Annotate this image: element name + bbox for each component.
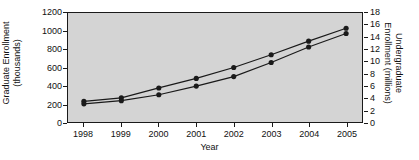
data-point-marker xyxy=(269,52,274,57)
y-axis-left-title-line2: (thousands) xyxy=(12,4,23,122)
y-axis-right-tick-mark xyxy=(364,123,368,124)
data-point-marker xyxy=(156,92,161,97)
y-axis-right-tick-label: 10 xyxy=(370,57,380,66)
y-axis-left-tick-mark xyxy=(63,105,67,106)
x-axis-tick-mark xyxy=(83,123,84,127)
y-axis-right-tick-mark xyxy=(364,61,368,62)
data-point-marker xyxy=(119,98,124,103)
y-axis-right-title: Undergraduate Enrollment (millions) xyxy=(382,4,404,122)
x-axis-title: Year xyxy=(0,142,419,152)
y-axis-left-tick-mark xyxy=(63,123,67,124)
y-axis-left-title: Graduate Enrollment (thousands) xyxy=(1,4,23,122)
data-point-marker xyxy=(231,65,236,70)
y-axis-left-tick-mark xyxy=(63,86,67,87)
y-axis-left-tick-label: 400 xyxy=(47,82,62,91)
y-axis-left-tick-mark xyxy=(63,12,67,13)
data-point-marker xyxy=(269,60,274,65)
series-line xyxy=(84,28,346,101)
y-axis-right-tick-mark xyxy=(364,37,368,38)
data-point-marker xyxy=(194,84,199,89)
x-axis-tick-label: 2000 xyxy=(138,129,178,139)
y-axis-right-tick-mark xyxy=(364,98,368,99)
y-axis-right-title-line1: Undergraduate xyxy=(393,4,404,122)
data-point-marker xyxy=(231,74,236,79)
y-axis-right-tick-label: 8 xyxy=(370,69,375,78)
y-axis-right-title-line2: Enrollment (millions) xyxy=(382,4,393,122)
series-line xyxy=(84,33,346,103)
data-point-marker xyxy=(156,85,161,90)
x-axis-tick-mark xyxy=(234,123,235,127)
y-axis-right-tick-label: 0 xyxy=(370,119,375,128)
x-axis-tick-label: 2001 xyxy=(176,129,216,139)
y-axis-right-tick-mark xyxy=(364,49,368,50)
series-canvas xyxy=(68,13,362,122)
data-point-marker xyxy=(194,76,199,81)
y-axis-left-tick-label: 800 xyxy=(47,45,62,54)
y-axis-left-tick-label: 600 xyxy=(47,63,62,72)
x-axis-tick-mark xyxy=(121,123,122,127)
y-axis-left-tick-label: 200 xyxy=(47,100,62,109)
data-point-marker xyxy=(306,39,311,44)
y-axis-left-tick-label: 0 xyxy=(57,119,62,128)
data-point-marker xyxy=(81,101,86,106)
y-axis-right-tick-label: 4 xyxy=(370,94,375,103)
y-axis-left-ticks: 020040060080010001200 xyxy=(18,0,62,160)
y-axis-right-tick-label: 14 xyxy=(370,32,380,41)
data-point-marker xyxy=(344,31,349,36)
y-axis-right-tick-label: 18 xyxy=(370,8,380,17)
y-axis-right-tick-mark xyxy=(364,74,368,75)
y-axis-right-tick-label: 2 xyxy=(370,106,375,115)
x-axis-tick-label: 2005 xyxy=(327,129,367,139)
y-axis-left-tick-label: 1000 xyxy=(42,26,62,35)
x-axis-tick-label: 2004 xyxy=(289,129,329,139)
x-axis-tick-mark xyxy=(158,123,159,127)
y-axis-right-tick-label: 12 xyxy=(370,45,380,54)
data-point-marker xyxy=(344,26,349,31)
y-axis-right-tick-label: 6 xyxy=(370,82,375,91)
chart-figure: 020040060080010001200 024681012141618 Gr… xyxy=(0,0,419,160)
x-axis-tick-mark xyxy=(196,123,197,127)
x-axis-tick-label: 1999 xyxy=(101,129,141,139)
x-axis-tick-label: 2003 xyxy=(252,129,292,139)
y-axis-left-tick-mark xyxy=(63,68,67,69)
x-axis-tick-label: 1998 xyxy=(63,129,103,139)
data-point-marker xyxy=(306,45,311,50)
plot-area xyxy=(67,12,363,123)
y-axis-right-tick-mark xyxy=(364,12,368,13)
y-axis-right-tick-mark xyxy=(364,24,368,25)
y-axis-right-tick-label: 16 xyxy=(370,20,380,29)
y-axis-left-tick-label: 1200 xyxy=(42,8,62,17)
y-axis-left-tick-mark xyxy=(63,31,67,32)
x-axis-tick-mark xyxy=(347,123,348,127)
x-axis-tick-label: 2002 xyxy=(214,129,254,139)
x-axis-tick-mark xyxy=(309,123,310,127)
x-axis-tick-mark xyxy=(272,123,273,127)
y-axis-left-title-line1: Graduate Enrollment xyxy=(1,4,12,122)
y-axis-right-tick-mark xyxy=(364,86,368,87)
y-axis-right-tick-mark xyxy=(364,111,368,112)
y-axis-left-tick-mark xyxy=(63,49,67,50)
